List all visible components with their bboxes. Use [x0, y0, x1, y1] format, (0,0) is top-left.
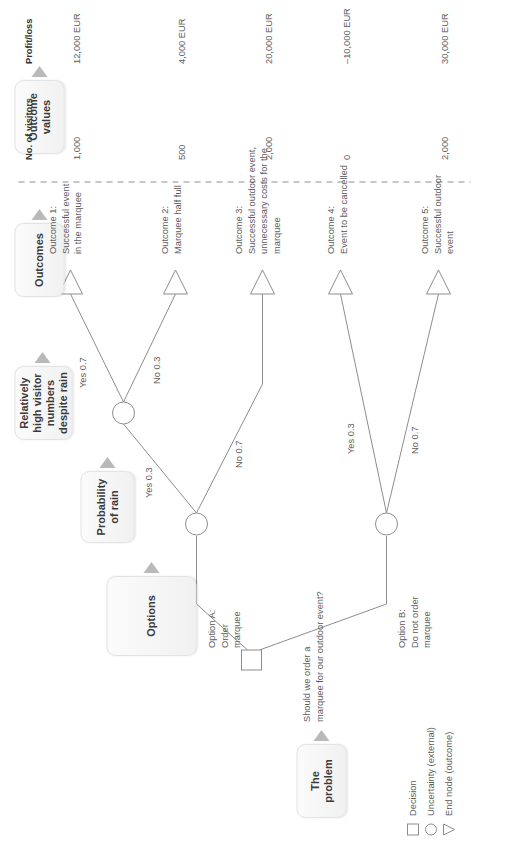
diagram-canvas: The problem Options Probability of rain …: [0, 0, 507, 854]
chance-node-option-b: [375, 513, 397, 535]
legend-label-decision: Decision: [407, 780, 417, 816]
stage-chip-visitors: Relatively high visitor numbers despite …: [14, 366, 72, 440]
branch-label-a-rain-yes: Yes 0.3: [142, 467, 155, 498]
branch-label-a-rain-no: No 0.7: [232, 441, 245, 468]
stage-chip-problem: The problem: [296, 744, 346, 818]
value-header-visitors: No. of visitors: [22, 98, 35, 160]
decision-node-root: [241, 650, 261, 670]
tree-connectors: [0, 0, 507, 854]
chance-node-visitors: [112, 402, 134, 424]
stage-arrow-options: [143, 562, 159, 573]
diagram-root: The problem Options Probability of rain …: [0, 0, 507, 854]
value-visitors-2: 500: [175, 144, 188, 160]
stage-arrow-visitors: [34, 352, 50, 363]
stage-chip-probability: Probability of rain: [80, 471, 134, 543]
triangle-icon: [442, 823, 455, 836]
option-b-label: Option B: Do not order marquee: [395, 596, 433, 648]
value-header-profit: Profit/loss: [22, 19, 35, 64]
value-visitors-1: 1,000: [70, 137, 83, 160]
value-profit-5: 30,000 EUR: [438, 13, 451, 64]
value-visitors-3: 2,000: [262, 137, 275, 160]
outcome-text-5: Outcome 5: Successful outdoor event: [418, 174, 456, 254]
legend-label-end-node: End node (outcome): [443, 732, 453, 816]
stage-chip-values: Outcome values: [14, 80, 64, 154]
stage-arrow-outcomes: [31, 209, 47, 220]
value-profit-3: 20,000 EUR: [262, 13, 275, 64]
value-visitors-5: 2,000: [438, 137, 451, 160]
stage-arrow-probability: [99, 457, 115, 468]
stage-chip-options: Options: [106, 576, 196, 656]
option-a-label: Option A: Order marquee: [205, 610, 243, 648]
legend-label-uncertainty: Uncertainty (external): [425, 727, 435, 816]
branch-label-a-visitors-no: No 0.3: [150, 357, 163, 384]
outcome-text-3: Outcome 3: Successful outdoor event, unn…: [232, 174, 282, 254]
branch-label-a-visitors-yes: Yes 0.7: [76, 357, 89, 388]
value-profit-2: 4,000 EUR: [175, 19, 188, 64]
circle-icon: [424, 823, 437, 836]
branch-label-b-rain-no: No 0.7: [408, 427, 421, 454]
value-profit-4: –10,000 EUR: [340, 8, 353, 64]
value-visitors-4: 0: [340, 155, 353, 160]
end-node-outcome-5: [426, 270, 450, 294]
outcome-text-1: Outcome 1: Successful event in the marqu…: [46, 174, 84, 254]
outcome-text-2: Outcome 2: Marquee half full: [158, 174, 183, 254]
end-node-outcome-3: [250, 270, 274, 294]
square-icon: [406, 823, 419, 836]
end-node-outcome-4: [328, 270, 352, 294]
stage-arrow-values: [31, 66, 47, 77]
chance-node-option-a: [185, 513, 207, 535]
value-profit-1: 12,000 EUR: [70, 13, 83, 64]
branch-label-b-rain-yes: Yes 0.3: [344, 423, 357, 454]
problem-statement: Should we order a marquee for our outdoo…: [300, 602, 325, 722]
end-node-outcome-2: [163, 270, 187, 294]
outcome-text-4: Outcome 4: Event to be cancelled: [324, 174, 349, 254]
stage-arrow-problem: [313, 730, 329, 741]
